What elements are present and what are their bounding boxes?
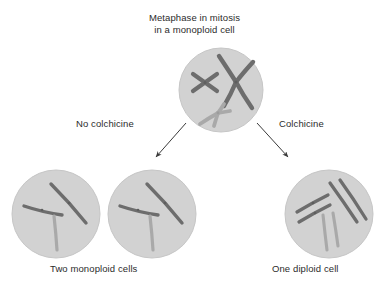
metaphase-cell bbox=[179, 48, 263, 132]
label-no-colchicine: No colchicine bbox=[76, 118, 134, 130]
diploid-cell bbox=[285, 170, 373, 258]
diagram-canvas bbox=[0, 0, 389, 287]
caption-two-monoploid-cells: Two monoploid cells bbox=[50, 263, 137, 275]
monoploid-cell-2 bbox=[108, 170, 196, 258]
page-title-line1: Metaphase in mitosis bbox=[0, 12, 389, 24]
label-colchicine: Colchicine bbox=[279, 118, 324, 130]
mitosis-colchicine-diagram: Metaphase in mitosis in a monoploid cell… bbox=[0, 0, 389, 287]
page-title: Metaphase in mitosis in a monoploid cell bbox=[0, 12, 389, 36]
monoploid-cell-1 bbox=[12, 170, 100, 258]
caption-one-diploid-cell: One diploid cell bbox=[272, 263, 339, 275]
page-title-line2: in a monoploid cell bbox=[0, 24, 389, 36]
arrow-no-colchicine bbox=[156, 123, 186, 157]
